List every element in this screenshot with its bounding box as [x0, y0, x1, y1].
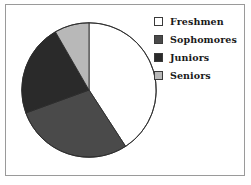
legend-swatch-sophomores [154, 35, 163, 44]
legend-swatch-freshmen [154, 17, 163, 26]
pie-chart-svg [21, 22, 157, 158]
legend-swatch-seniors [154, 71, 163, 80]
legend-swatch-juniors [154, 53, 163, 62]
pie-slice-group [22, 23, 156, 157]
legend-item-freshmen[interactable]: Freshmen [154, 13, 242, 30]
legend-label-juniors: Juniors [170, 53, 209, 63]
legend-label-sophomores: Sophomores [170, 35, 237, 45]
legend-item-sophomores[interactable]: Sophomores [154, 31, 242, 48]
pie-chart-figure: Freshmen Sophomores Juniors Seniors [0, 0, 251, 185]
legend-label-seniors: Seniors [170, 71, 211, 81]
legend-item-seniors[interactable]: Seniors [154, 67, 242, 84]
pie-chart-area [21, 22, 157, 158]
legend: Freshmen Sophomores Juniors Seniors [154, 13, 242, 85]
legend-item-juniors[interactable]: Juniors [154, 49, 242, 66]
legend-label-freshmen: Freshmen [170, 17, 224, 27]
